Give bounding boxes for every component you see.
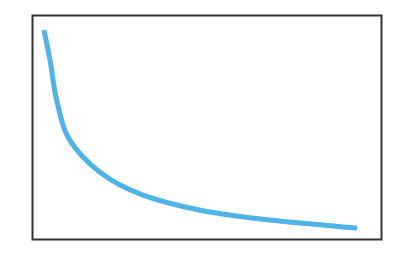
- chart-container: [0, 0, 404, 256]
- plot-frame: [33, 16, 382, 240]
- chart-plot: [0, 0, 404, 256]
